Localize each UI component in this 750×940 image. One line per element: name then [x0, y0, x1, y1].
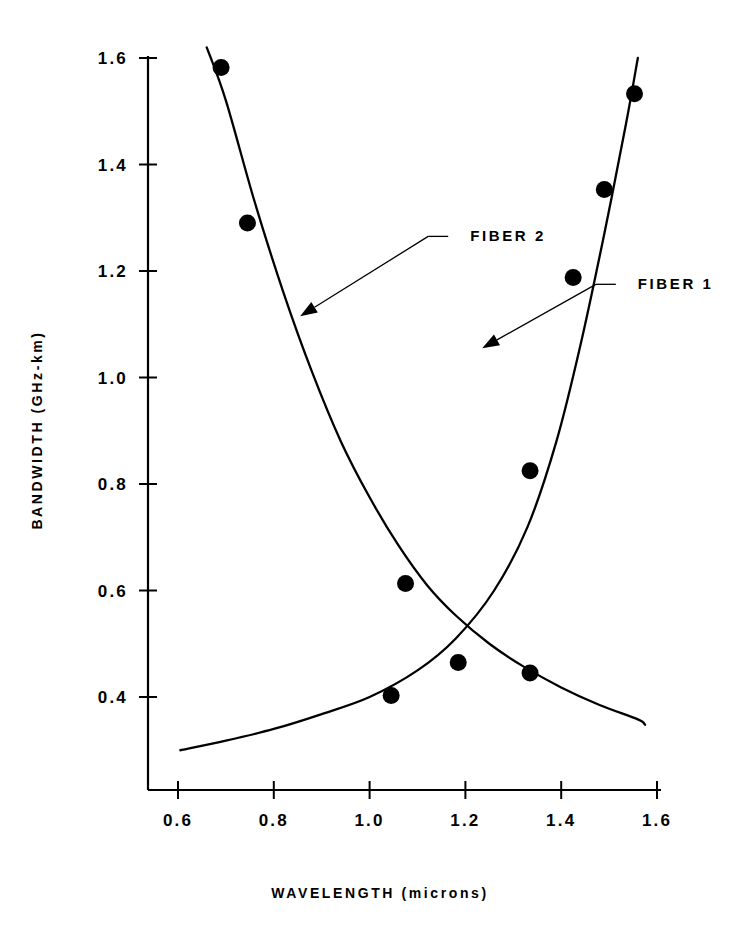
- data-point-fiber-1: [522, 462, 539, 479]
- chart-svg: 0.40.60.81.01.21.41.6 0.60.81.01.21.41.6…: [0, 0, 750, 940]
- data-point-fiber-1: [565, 269, 582, 286]
- data-point-fiber-2: [213, 59, 230, 76]
- y-tick-label: 1.6: [98, 49, 128, 68]
- y-tick-label: 0.6: [98, 582, 128, 601]
- series-curve-fiber-2: [207, 47, 645, 724]
- series-curve-fiber-1: [180, 58, 637, 750]
- data-point-fiber-2: [450, 654, 467, 671]
- x-tick-label: 1.4: [546, 811, 576, 830]
- data-point-fiber-1: [626, 85, 643, 102]
- y-axis-tick-labels: 0.40.60.81.01.21.41.6: [98, 49, 128, 707]
- annotation-arrowhead: [482, 334, 500, 348]
- x-tick-label: 1.0: [354, 811, 384, 830]
- x-tick-label: 1.6: [642, 811, 672, 830]
- annotation-label-fiber-2: FIBER 2: [470, 227, 546, 244]
- data-point-fiber-1: [596, 181, 613, 198]
- x-axis-tick-labels: 0.60.81.01.21.41.6: [163, 811, 672, 830]
- figure-canvas: 0.40.60.81.01.21.41.6 0.60.81.01.21.41.6…: [0, 0, 750, 940]
- data-point-fiber-1: [383, 687, 400, 704]
- x-tick-label: 0.6: [163, 811, 193, 830]
- y-tick-label: 1.2: [98, 262, 128, 281]
- x-tick-label: 0.8: [259, 811, 289, 830]
- data-points: [213, 59, 643, 704]
- x-axis-title: WAVELENGTH (microns): [271, 885, 488, 901]
- annotation-label-fiber-1: FIBER 1: [638, 275, 714, 292]
- y-tick-label: 1.0: [98, 369, 128, 388]
- data-curves: [180, 47, 645, 750]
- y-tick-label: 0.8: [98, 475, 128, 494]
- data-point-fiber-2: [239, 215, 256, 232]
- y-axis-title: BANDWIDTH (GHz-km): [29, 330, 45, 529]
- data-point-fiber-2: [522, 665, 539, 682]
- x-tick-label: 1.2: [450, 811, 480, 830]
- y-tick-label: 0.4: [98, 688, 128, 707]
- y-tick-label: 1.4: [98, 156, 128, 175]
- curve-annotations: FIBER 2FIBER 1: [300, 227, 713, 348]
- annotation-arrowhead: [300, 302, 318, 316]
- data-point-fiber-2: [397, 575, 414, 592]
- annotation-leader-line: [497, 284, 596, 340]
- annotation-leader-line: [315, 236, 429, 307]
